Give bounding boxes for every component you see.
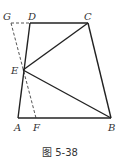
figure-caption: 图 5-38 [0,144,120,159]
label-E: E [10,65,19,76]
segment-BC [88,23,111,118]
label-G: G [3,11,11,22]
label-D: D [27,11,36,22]
label-A: A [13,122,21,133]
label-C: C [84,11,92,22]
label-B: B [107,122,115,133]
label-F: F [32,122,41,133]
trapezoid-diagram: G D C E A F B [0,0,120,162]
segment-EB [23,70,111,118]
segment-EC [23,23,88,70]
